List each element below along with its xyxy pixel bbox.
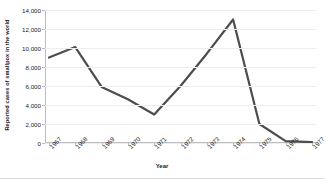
y-axis-title: Reported cases of smallpox in the world (0, 0, 14, 150)
grid-line (45, 29, 316, 30)
y-tick-label: 2,000 (26, 121, 41, 128)
y-tick-mark (42, 10, 45, 11)
grid-line (45, 124, 316, 125)
y-axis-title-text: Reported cases of smallpox in the world (4, 19, 10, 130)
y-tick-label: 6,000 (26, 83, 41, 90)
y-tick-label: 10,000 (22, 45, 41, 52)
y-tick-mark (42, 105, 45, 106)
y-tick-label: 0 (38, 140, 41, 147)
y-tick-mark (42, 48, 45, 49)
y-tick-label: 4,000 (26, 102, 41, 109)
grid-line (45, 67, 316, 68)
grid-line (45, 86, 316, 87)
y-axis-tick-labels: 02,0004,0006,0008,00010,00012,00014,000 (14, 10, 44, 143)
x-axis-title: Year (0, 163, 324, 169)
y-tick-mark (42, 143, 45, 144)
plot-area (45, 10, 316, 143)
y-tick-label: 14,000 (22, 7, 41, 14)
y-tick-label: 8,000 (26, 64, 41, 71)
y-tick-mark (42, 86, 45, 87)
grid-line (45, 48, 316, 49)
y-tick-label: 12,000 (22, 26, 41, 33)
y-tick-mark (42, 29, 45, 30)
y-tick-mark (42, 124, 45, 125)
grid-line (45, 10, 316, 11)
grid-line (45, 105, 316, 106)
y-tick-mark (42, 67, 45, 68)
